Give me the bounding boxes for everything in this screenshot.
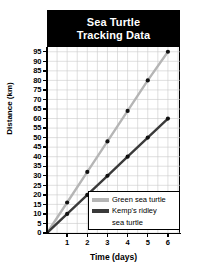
y-tick-label: 70 bbox=[33, 96, 41, 104]
y-tick-5: 5 bbox=[37, 218, 47, 228]
y-tick-mark bbox=[43, 89, 47, 90]
x-tick-label: 4 bbox=[126, 239, 130, 247]
x-tick-4: 4 bbox=[121, 233, 135, 246]
x-tick-label: 3 bbox=[105, 239, 109, 247]
y-tick-label: 30 bbox=[33, 172, 41, 180]
y-tick-label: 20 bbox=[33, 191, 41, 199]
y-tick-label: 15 bbox=[33, 201, 41, 209]
y-tick-mark bbox=[43, 166, 47, 167]
y-tick-mark bbox=[43, 80, 47, 81]
y-tick-mark bbox=[43, 70, 47, 71]
y-tick-label: 60 bbox=[33, 115, 41, 123]
y-tick-mark bbox=[43, 118, 47, 119]
y-tick-25: 25 bbox=[33, 180, 47, 190]
y-tick-mark bbox=[43, 99, 47, 100]
y-tick-label: 35 bbox=[33, 162, 41, 170]
x-tick-mark bbox=[66, 233, 67, 237]
x-tick-mark bbox=[167, 233, 168, 237]
x-tick-mark bbox=[107, 233, 108, 237]
legend-swatch-green-sea-turtle bbox=[92, 198, 109, 201]
y-tick-mark bbox=[43, 61, 47, 62]
y-tick-label: 75 bbox=[33, 86, 41, 94]
y-tick-label: 50 bbox=[33, 134, 41, 142]
y-tick-95: 95 bbox=[33, 47, 47, 57]
x-axis-ticks: 123456 bbox=[47, 233, 180, 251]
y-tick-75: 75 bbox=[33, 85, 47, 95]
y-tick-mark bbox=[43, 137, 47, 138]
y-tick-70: 70 bbox=[33, 94, 47, 104]
legend-label-kemps-ridley: Kemp's ridley bbox=[112, 207, 157, 215]
y-tick-label: 65 bbox=[33, 105, 41, 113]
y-tick-80: 80 bbox=[33, 75, 47, 85]
y-tick-90: 90 bbox=[33, 56, 47, 66]
y-tick-label: 0 bbox=[37, 229, 41, 237]
chart-title-banner: Sea Turtle Tracking Data bbox=[47, 10, 180, 47]
y-tick-mark bbox=[43, 51, 47, 52]
x-tick-label: 5 bbox=[146, 239, 150, 247]
y-tick-label: 25 bbox=[33, 182, 41, 190]
y-tick-10: 10 bbox=[33, 209, 47, 219]
x-tick-mark bbox=[147, 233, 148, 237]
y-tick-85: 85 bbox=[33, 66, 47, 76]
y-tick-label: 85 bbox=[33, 67, 41, 75]
y-tick-label: 5 bbox=[37, 220, 41, 228]
y-tick-60: 60 bbox=[33, 114, 47, 124]
y-tick-mark bbox=[43, 127, 47, 128]
y-tick-35: 35 bbox=[33, 161, 47, 171]
legend-label-kemps-ridley-continued: sea turtle bbox=[112, 219, 176, 227]
y-tick-50: 50 bbox=[33, 133, 47, 143]
x-tick-label: 2 bbox=[85, 239, 89, 247]
y-tick-mark bbox=[43, 146, 47, 147]
y-tick-mark bbox=[43, 108, 47, 109]
y-tick-label: 80 bbox=[33, 77, 41, 85]
y-axis-title: Distance (km) bbox=[5, 54, 14, 164]
y-tick-mark bbox=[43, 175, 47, 176]
y-tick-15: 15 bbox=[33, 199, 47, 209]
x-tick-2: 2 bbox=[80, 233, 94, 246]
x-axis-title: Time (days) bbox=[47, 252, 180, 262]
x-tick-3: 3 bbox=[100, 233, 114, 246]
x-tick-label: 6 bbox=[166, 239, 170, 247]
legend-swatch-kemps-ridley bbox=[92, 209, 109, 212]
chart-title-line-1: Sea Turtle bbox=[87, 16, 140, 28]
chart-legend: Green sea turtle Kemp's ridley sea turtl… bbox=[88, 191, 180, 230]
x-tick-mark bbox=[87, 233, 88, 237]
x-tick-1: 1 bbox=[60, 233, 74, 246]
y-tick-mark bbox=[43, 194, 47, 195]
y-tick-mark bbox=[43, 204, 47, 205]
x-tick-6: 6 bbox=[161, 233, 175, 246]
legend-item-green-sea-turtle: Green sea turtle bbox=[92, 195, 176, 206]
y-tick-55: 55 bbox=[33, 123, 47, 133]
y-tick-label: 40 bbox=[33, 153, 41, 161]
y-tick-label: 10 bbox=[33, 210, 41, 218]
y-tick-label: 95 bbox=[33, 48, 41, 56]
y-tick-30: 30 bbox=[33, 171, 47, 181]
chart-title-line-2: Tracking Data bbox=[77, 29, 150, 41]
y-tick-0: 0 bbox=[37, 228, 47, 238]
legend-item-kemps-ridley: Kemp's ridley bbox=[92, 206, 176, 217]
y-tick-20: 20 bbox=[33, 190, 47, 200]
y-tick-label: 90 bbox=[33, 58, 41, 66]
y-tick-45: 45 bbox=[33, 142, 47, 152]
y-tick-65: 65 bbox=[33, 104, 47, 114]
x-tick-label: 1 bbox=[65, 239, 69, 247]
legend-label-green-sea-turtle: Green sea turtle bbox=[112, 196, 166, 204]
y-tick-mark bbox=[43, 156, 47, 157]
x-tick-5: 5 bbox=[141, 233, 155, 246]
chart-figure: Sea Turtle Tracking Data 051015202530354… bbox=[0, 0, 197, 277]
y-tick-label: 45 bbox=[33, 143, 41, 151]
y-tick-mark bbox=[43, 185, 47, 186]
y-tick-mark bbox=[43, 213, 47, 214]
y-tick-mark bbox=[43, 223, 47, 224]
x-tick-mark bbox=[127, 233, 128, 237]
y-tick-40: 40 bbox=[33, 152, 47, 162]
y-tick-label: 55 bbox=[33, 124, 41, 132]
